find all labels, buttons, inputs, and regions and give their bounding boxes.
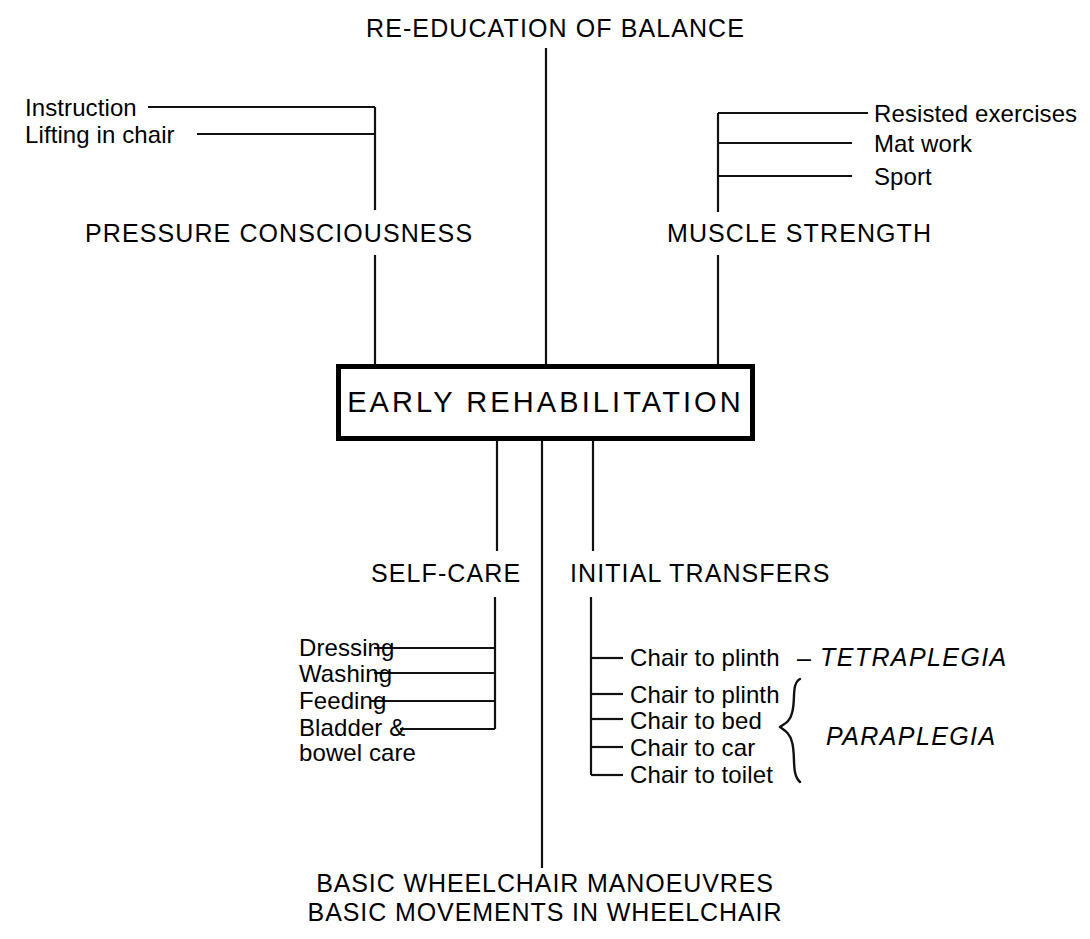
- item-lifting-in-chair: Lifting in chair: [25, 121, 175, 148]
- heading-self-care: SELF-CARE: [371, 559, 521, 588]
- label-tetraplegia: TETRAPLEGIA: [820, 643, 1008, 672]
- item-paraplegia-chair-to-plinth: Chair to plinth: [630, 681, 780, 708]
- bottom-line-2: BASIC MOVEMENTS IN WHEELCHAIR: [0, 898, 1090, 927]
- central-node-label: EARLY REHABILITATION: [341, 369, 750, 436]
- bottom-line-1: BASIC WHEELCHAIR MANOEUVRES: [0, 869, 1090, 898]
- item-bladder-care-line2: bowel care: [299, 739, 416, 766]
- item-washing: Washing: [299, 660, 392, 687]
- label-paraplegia: PARAPLEGIA: [826, 722, 997, 751]
- bottom-node: BASIC WHEELCHAIR MANOEUVRES BASIC MOVEME…: [0, 869, 1090, 927]
- heading-pressure-consciousness: PRESSURE CONSCIOUSNESS: [85, 219, 473, 248]
- tetraplegia-dash: –: [797, 644, 811, 673]
- item-dressing: Dressing: [299, 634, 395, 661]
- item-mat-work: Mat work: [874, 130, 972, 157]
- item-bladder-care-line1: Bladder &: [299, 714, 405, 741]
- item-feeding: Feeding: [299, 687, 386, 714]
- item-paraplegia-chair-to-bed: Chair to bed: [630, 707, 762, 734]
- item-resisted-exercises: Resisted exercises: [874, 100, 1077, 127]
- item-sport: Sport: [874, 163, 932, 190]
- diagram-title: RE-EDUCATION OF BALANCE: [366, 14, 745, 43]
- item-tetraplegia-chair-to-plinth: Chair to plinth: [630, 644, 780, 671]
- item-instruction: Instruction: [25, 94, 137, 121]
- item-paraplegia-chair-to-toilet: Chair to toilet: [630, 761, 773, 788]
- heading-initial-transfers: INITIAL TRANSFERS: [570, 559, 830, 588]
- paraplegia-brace: [780, 679, 800, 782]
- heading-muscle-strength: MUSCLE STRENGTH: [667, 219, 932, 248]
- item-paraplegia-chair-to-car: Chair to car: [630, 734, 755, 761]
- diagram-canvas: RE-EDUCATION OF BALANCE Instruction Lift…: [0, 0, 1090, 939]
- central-node-early-rehabilitation: EARLY REHABILITATION: [336, 364, 755, 441]
